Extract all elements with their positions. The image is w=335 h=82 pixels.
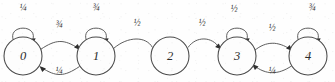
state-node-0[interactable]: 0 — [4, 37, 42, 75]
edge-0-to-1 — [41, 41, 79, 49]
arrow-head-1-to-0 — [39, 66, 46, 72]
edge-label-1-1: ¾ — [92, 3, 99, 13]
edge-label-0-0: ¼ — [19, 3, 26, 13]
state-node-1[interactable]: 1 — [77, 37, 115, 75]
state-label-2: 2 — [167, 49, 173, 63]
state-label-0: 0 — [20, 49, 27, 63]
edge-3-to-4 — [255, 43, 291, 50]
state-diagram-canvas: 0 1 2 3 4 ¼ ¾ ¼ ¾ ½ ½ ½ ½ ¼ ¾ — [0, 0, 335, 82]
edge-label-4-4: ¾ — [308, 3, 315, 13]
state-node-3[interactable]: 3 — [218, 37, 256, 75]
markov-chain-diagram: 0 1 2 3 4 ¼ ¾ ¼ ¾ ½ ½ ½ ½ ¼ ¾ — [0, 0, 335, 82]
edge-label-1-0: ¼ — [55, 66, 62, 76]
state-node-2[interactable]: 2 — [151, 37, 189, 75]
state-label-4: 4 — [305, 49, 311, 63]
state-label-3: 3 — [233, 49, 240, 63]
edge-label-0-1: ¾ — [55, 20, 62, 30]
state-label-1: 1 — [93, 49, 99, 63]
edge-label-3-3: ½ — [230, 4, 237, 14]
edge-1-to-2 — [114, 39, 153, 49]
edge-2-to-3 — [188, 39, 220, 48]
edge-label-4-3: ¼ — [268, 66, 275, 76]
edge-label-3-4: ½ — [268, 23, 275, 33]
edge-label-2-3: ½ — [198, 18, 205, 28]
state-node-4[interactable]: 4 — [289, 37, 327, 75]
edge-label-1-2: ½ — [133, 18, 140, 28]
